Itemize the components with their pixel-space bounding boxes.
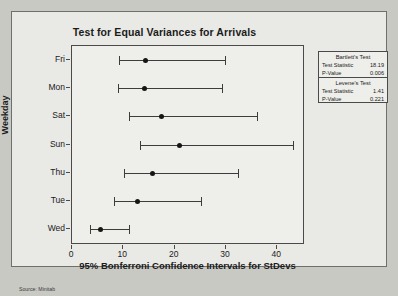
bartlett-p-value-value: 0.006 [370, 70, 384, 76]
interval-cap-upper [238, 169, 239, 178]
interval-line [114, 201, 201, 202]
interval-center-point [98, 227, 103, 232]
interval-cap-lower [90, 225, 91, 234]
plot-area [71, 45, 304, 244]
levene-test-heading: Levene's Test [319, 78, 387, 88]
interval-line [140, 145, 293, 146]
x-axis-tick-label: 10 [118, 249, 127, 259]
bartlett-test-statistic-label: Test Statistic [322, 62, 353, 68]
levene-p-value-row: P-Value 0.221 [319, 95, 387, 103]
interval-cap-upper [257, 112, 258, 121]
interval-line [119, 60, 225, 61]
x-axis-tick-label: 20 [169, 249, 178, 259]
levene-test-statistic-value: 1.41 [373, 88, 384, 94]
source-caption: Source: Minitab [19, 286, 55, 292]
levene-p-value-label: P-Value [322, 96, 342, 102]
interval-cap-upper [222, 84, 223, 93]
statistics-box: Bartlett's Test Test Statistic 18.19 P-V… [318, 51, 388, 103]
y-axis-tick-label-tue: Tue [21, 195, 65, 205]
x-axis-title: 95% Bonferroni Confidence Intervals for … [71, 260, 304, 271]
interval-center-point [150, 171, 155, 176]
interval-cap-lower [114, 197, 115, 206]
x-axis-tick-label: 0 [69, 249, 74, 259]
bartlett-p-value-label: P-Value [322, 70, 342, 76]
slide-frame: Test for Equal Variances for Arrivals We… [11, 11, 387, 267]
x-axis-tick-label: 40 [272, 249, 281, 259]
interval-cap-lower [124, 169, 125, 178]
interval-cap-lower [118, 84, 119, 93]
interval-line [90, 229, 130, 230]
y-axis-tick [66, 115, 70, 116]
interval-center-point [159, 114, 164, 119]
y-axis-tick [66, 87, 70, 88]
interval-line [124, 173, 238, 174]
y-axis-tick-label-sat: Sat [21, 110, 65, 120]
interval-cap-lower [119, 56, 120, 65]
interval-line [129, 116, 257, 117]
interval-cap-lower [140, 141, 141, 150]
y-axis-title: Weekday [0, 96, 10, 135]
interval-line [118, 88, 222, 89]
bartlett-p-value-row: P-Value 0.006 [319, 69, 387, 77]
y-axis-tick [66, 172, 70, 173]
interval-cap-upper [201, 197, 202, 206]
interval-cap-upper [225, 56, 226, 65]
y-axis-tick [66, 144, 70, 145]
bartlett-test-statistic-row: Test Statistic 18.19 [319, 62, 387, 70]
chart-title: Test for Equal Variances for Arrivals [12, 26, 317, 38]
interval-cap-upper [129, 225, 130, 234]
y-axis-tick [66, 228, 70, 229]
interval-center-point [177, 143, 182, 148]
interval-center-point [143, 58, 148, 63]
levene-test-statistic-label: Test Statistic [322, 88, 353, 94]
y-axis-tick-label-fri: Fri [21, 54, 65, 64]
y-axis-tick [66, 59, 70, 60]
y-axis-tick [66, 200, 70, 201]
bartlett-test-heading: Bartlett's Test [319, 52, 387, 62]
x-axis-tick-label: 30 [220, 249, 229, 259]
levene-p-value-value: 0.221 [370, 96, 384, 102]
interval-cap-upper [293, 141, 294, 150]
y-axis-tick-label-wed: Wed [21, 223, 65, 233]
y-axis-tick-label-thu: Thu [21, 167, 65, 177]
levene-test-statistic-row: Test Statistic 1.41 [319, 87, 387, 95]
y-axis-tick-label-mon: Mon [21, 82, 65, 92]
bartlett-test-statistic-value: 18.19 [370, 62, 384, 68]
interval-center-point [142, 86, 147, 91]
interval-cap-lower [129, 112, 130, 121]
interval-center-point [135, 199, 140, 204]
y-axis-tick-label-sun: Sun [21, 139, 65, 149]
plot-inner [72, 46, 303, 243]
